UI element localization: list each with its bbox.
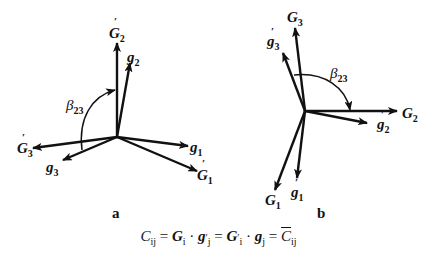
label-G1-prime-a: G1 (197, 167, 213, 186)
label-beta23-b: β23 (329, 65, 347, 84)
prime-mark: ′ (202, 157, 205, 169)
formula-g-prime: g (198, 228, 206, 244)
label-G3-b: G3 (287, 9, 303, 28)
prime-mark: ′ (114, 15, 117, 27)
prime-mark: ′ (381, 108, 384, 120)
prime-mark: ′ (295, 176, 298, 188)
formula-eq: = (156, 228, 172, 244)
formula-G-prime: G (226, 228, 237, 244)
formula-dot: · (186, 228, 199, 244)
diagram-b (275, 28, 397, 190)
vector-g2-a (117, 63, 130, 137)
label-g1-a: g1 (189, 139, 203, 158)
panel-label-a: a (112, 205, 120, 221)
diagram-a (33, 43, 197, 171)
label-g2-a: g2 (126, 49, 140, 68)
vector-g2-prime-b (305, 111, 367, 123)
formula-sub: ij (291, 236, 297, 247)
diagram-b-labels: G3 g3 ′ β23 G2 g2 ′ G1 g1 ′ b (265, 9, 418, 221)
label-G1-b: G1 (265, 192, 281, 211)
formula-dot: · (242, 228, 255, 244)
prime-mark: ′ (22, 131, 25, 143)
diagram-a-labels: G2 ′ g2 β23 G3 ′ g3 g1 G1 ′ a (17, 15, 213, 221)
formula-eq: = (211, 228, 227, 244)
label-g3-a: g3 (45, 159, 59, 178)
label-beta23-a: β23 (65, 97, 83, 116)
label-G2-b: G2 (402, 105, 418, 124)
formula-C: C (140, 228, 150, 244)
formula-eq: = (265, 228, 281, 244)
formula-G: G (172, 228, 183, 244)
relation-formula: Cij = Gi · g′j = G′i · gj = Cij (0, 228, 437, 247)
label-G2-prime-a: G2 (109, 25, 125, 44)
formula-C-bar: C (281, 228, 291, 244)
panel-label-b: b (317, 205, 325, 221)
prime-mark: ′ (271, 25, 274, 37)
